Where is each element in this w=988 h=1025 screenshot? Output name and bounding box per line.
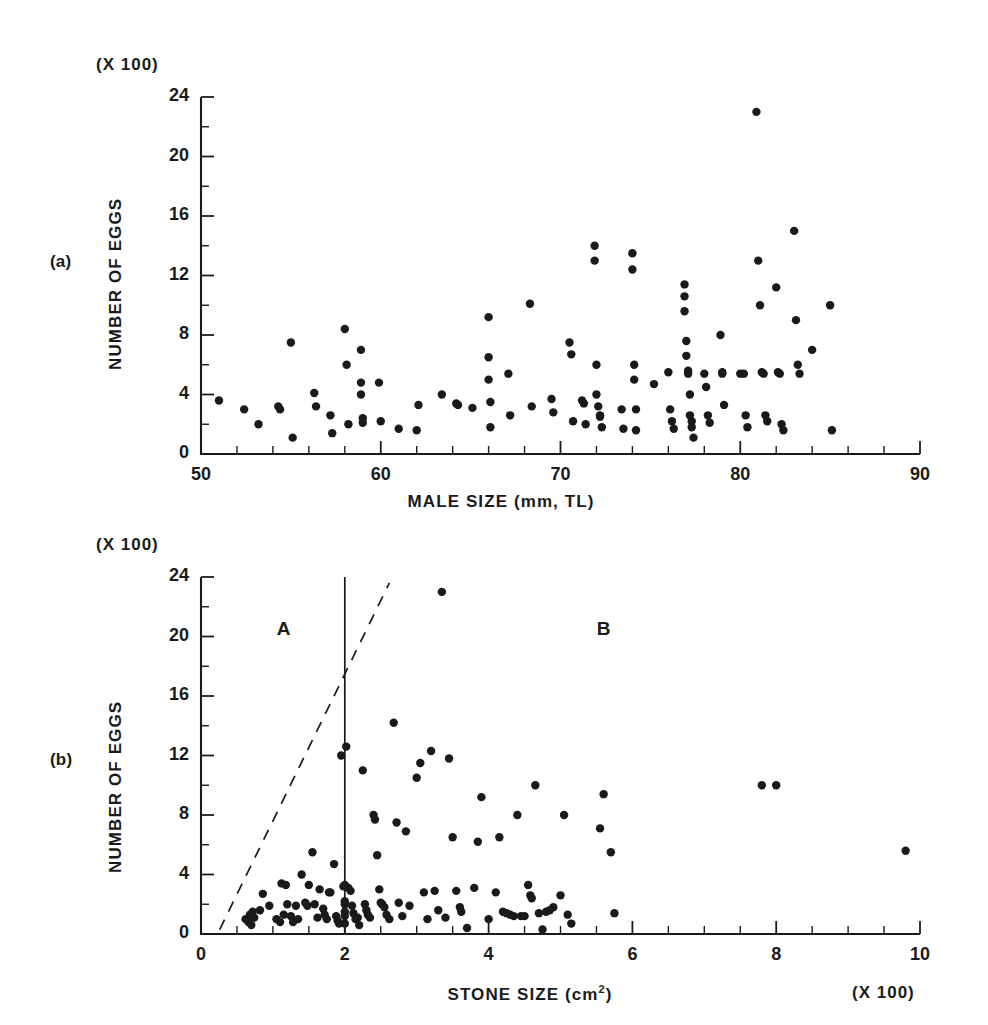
y-tick-label: 0 [123,442,189,463]
y-tick-label: 8 [123,803,189,824]
x-tick-label: 50 [161,464,241,485]
region-label-b: B [597,618,611,640]
x-tick-label: 10 [880,944,960,965]
y-tick-label: 20 [123,145,189,166]
x-tick-label: 80 [700,464,780,485]
x-tick-label: 0 [161,944,241,965]
y-tick-label: 0 [123,922,189,943]
x-tick-label: 6 [592,944,672,965]
x-tick-label: 8 [736,944,816,965]
x-tick-label: 4 [449,944,529,965]
y-tick-label: 16 [123,684,189,705]
y-tick-label: 4 [123,863,189,884]
x-tick-label: 60 [341,464,421,485]
x-tick-label: 90 [880,464,960,485]
panel-b: (b) (X 100) NUMBER OF EGGS STONE SIZE (c… [0,505,988,1025]
y-tick-label: 4 [123,383,189,404]
y-tick-label: 16 [123,204,189,225]
y-tick-label: 12 [123,264,189,285]
y-tick-label: 24 [123,565,189,586]
panel-a: (a) (X 100) NUMBER OF EGGS MALE SIZE (mm… [0,0,988,535]
y-tick-label: 8 [123,323,189,344]
x-tick-label: 70 [521,464,601,485]
region-label-a: A [277,618,291,640]
y-tick-label: 20 [123,625,189,646]
figure-root: (a) (X 100) NUMBER OF EGGS MALE SIZE (mm… [0,0,988,1025]
y-tick-label: 12 [123,744,189,765]
y-tick-label: 24 [123,85,189,106]
x-tick-label: 2 [305,944,385,965]
